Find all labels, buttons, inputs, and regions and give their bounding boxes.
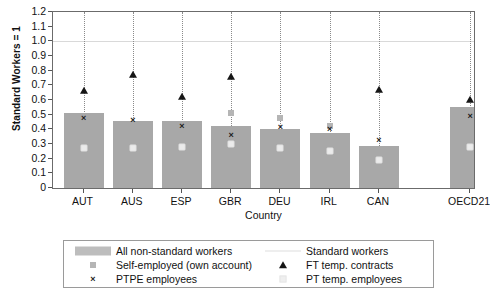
legend-key <box>260 272 306 286</box>
x-tick-label-deu: DEU <box>268 195 290 207</box>
x-tick-mark <box>279 189 280 193</box>
legend-label: Self-employed (own account) <box>116 258 252 272</box>
legend-light-square-marker-icon <box>280 276 287 283</box>
x-axis-title: Country <box>52 209 475 221</box>
data-point-triangle-marker <box>375 86 383 93</box>
x-tick-mark <box>230 189 231 193</box>
x-tick-mark <box>83 189 84 193</box>
legend-item[interactable]: Standard workers <box>260 244 402 258</box>
plot-area: ×××××××× <box>52 11 475 189</box>
data-point-square-marker <box>228 110 234 116</box>
x-tick-label-aus: AUS <box>121 195 143 207</box>
x-tick-label-esp: ESP <box>170 195 191 207</box>
x-tick-label-aut: AUT <box>72 195 93 207</box>
chart-bar <box>359 146 399 188</box>
legend-key <box>260 244 306 258</box>
data-point-light-square-marker <box>326 148 333 155</box>
legend-item[interactable]: PT temp. employees <box>260 272 402 286</box>
data-point-light-square-marker <box>129 145 136 152</box>
legend-label: Standard workers <box>306 244 388 258</box>
data-point-triangle-marker <box>178 93 186 100</box>
standard-workers-reference-line <box>53 41 474 42</box>
x-tick-mark <box>329 189 330 193</box>
data-point-x-marker: × <box>325 124 334 133</box>
legend-line-icon <box>265 251 301 252</box>
data-point-light-square-marker <box>80 145 87 152</box>
data-point-light-square-marker <box>228 141 235 148</box>
legend-column-right: Standard workersFT temp. contractsPT tem… <box>260 244 402 286</box>
legend-label: All non-standard workers <box>116 244 232 258</box>
legend-triangle-marker-icon <box>279 261 287 268</box>
data-point-x-marker: × <box>466 112 475 121</box>
legend-item[interactable]: All non-standard workers <box>70 244 252 258</box>
data-point-x-marker: × <box>227 131 236 140</box>
chart-bar <box>310 133 350 188</box>
data-point-x-marker: × <box>276 123 285 132</box>
legend-label: PT temp. employees <box>306 272 402 286</box>
legend-key <box>70 244 116 258</box>
x-tick-label-can: CAN <box>367 195 389 207</box>
legend-key: × <box>70 272 116 286</box>
data-point-light-square-marker <box>277 145 284 152</box>
data-point-x-marker: × <box>374 135 383 144</box>
chart-bar <box>113 121 153 188</box>
x-tick-label-oecd21: OECD21 <box>448 195 490 207</box>
x-tick-mark <box>181 189 182 193</box>
legend-label: PTPE employees <box>116 272 197 286</box>
data-point-triangle-marker <box>466 96 474 103</box>
chart-figure: Standard Workers = 1 00.10.20.30.40.50.6… <box>0 0 490 299</box>
chart-legend: All non-standard workersSelf-employed (o… <box>63 240 434 288</box>
chart-bar <box>260 129 300 188</box>
legend-bar-swatch-icon <box>75 247 111 256</box>
legend-item[interactable]: ×PTPE employees <box>70 272 252 286</box>
legend-column-left: All non-standard workersSelf-employed (o… <box>70 244 252 286</box>
data-point-light-square-marker <box>467 143 474 150</box>
data-point-triangle-marker <box>227 72 235 79</box>
legend-label: FT temp. contracts <box>306 258 393 272</box>
x-tick-mark <box>132 189 133 193</box>
x-tick-label-irl: IRL <box>321 195 337 207</box>
x-tick-label-gbr: GBR <box>219 195 242 207</box>
chart-bar <box>162 121 202 188</box>
legend-item[interactable]: Self-employed (own account) <box>70 258 252 272</box>
data-point-light-square-marker <box>375 157 382 164</box>
data-point-x-marker: × <box>178 121 187 130</box>
x-tick-mark <box>469 189 470 193</box>
data-point-square-marker <box>277 115 283 121</box>
legend-x-marker-icon: × <box>90 275 95 284</box>
data-point-x-marker: × <box>128 115 137 124</box>
data-point-triangle-marker <box>129 71 137 78</box>
data-point-triangle-marker <box>80 87 88 94</box>
legend-square-marker-icon <box>90 262 96 268</box>
legend-key <box>260 258 306 272</box>
data-point-light-square-marker <box>179 143 186 150</box>
data-point-x-marker: × <box>79 113 88 122</box>
legend-key <box>70 258 116 272</box>
legend-item[interactable]: FT temp. contracts <box>260 258 402 272</box>
x-tick-mark <box>378 189 379 193</box>
